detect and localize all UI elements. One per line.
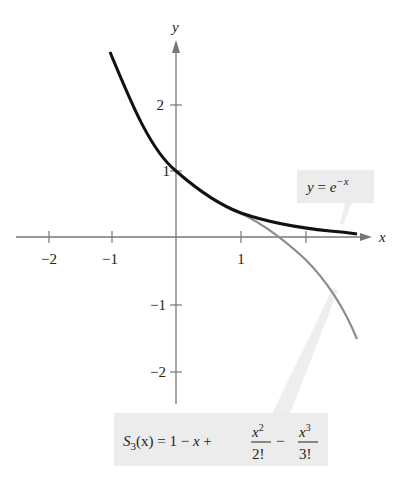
frac1-denominator: 2! bbox=[252, 446, 265, 462]
s3-leader bbox=[272, 288, 338, 414]
x-axis-label: x bbox=[378, 229, 386, 245]
chart: −2 −1 1 2 1 −1 −2 x y y = e−x S3(x) = 1 … bbox=[0, 0, 409, 491]
frac2-denominator: 3! bbox=[299, 446, 312, 462]
y-tick-label: 2 bbox=[157, 97, 165, 113]
x-tick-label: −1 bbox=[102, 251, 118, 267]
y-axis-arrow-icon bbox=[172, 40, 180, 53]
x-tick-label: −2 bbox=[41, 251, 57, 267]
exp-curve bbox=[110, 52, 357, 234]
y-tick-label: −2 bbox=[150, 364, 166, 380]
x-tick-label: 1 bbox=[237, 251, 245, 267]
exp-leader bbox=[340, 203, 352, 225]
y-tick-label: −1 bbox=[150, 297, 166, 313]
minus-sign: − bbox=[276, 433, 284, 449]
x-axis-arrow-icon bbox=[360, 233, 372, 241]
s3-curve-tail bbox=[230, 209, 357, 339]
y-axis-label: y bbox=[170, 19, 179, 35]
